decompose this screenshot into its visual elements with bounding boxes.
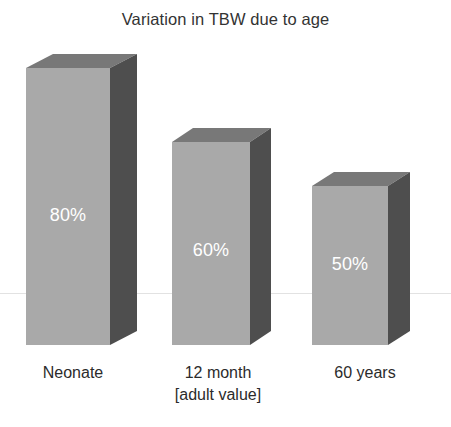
bar-neonate: 80% <box>26 54 137 345</box>
plot-area: 80% 60% 50% <box>0 0 451 355</box>
bar-side-face <box>388 172 410 345</box>
bar-value-label: 80% <box>26 205 110 226</box>
category-label-60-years: 60 years <box>300 362 430 384</box>
bar-60-years: 50% <box>312 172 410 345</box>
bar-value-label: 60% <box>172 240 250 261</box>
category-label-main: 60 years <box>334 364 395 381</box>
category-label-main: 12 month <box>185 364 252 381</box>
category-label-12-month: 12 month [adult value] <box>153 362 283 406</box>
category-label-main: Neonate <box>43 364 104 381</box>
bar-side-face <box>250 128 271 345</box>
category-label-sub: [adult value] <box>153 384 283 406</box>
bar-12-month: 60% <box>172 128 271 345</box>
bar-chart: Variation in TBW due to age 80% 60% 50% <box>0 0 451 427</box>
category-label-neonate: Neonate <box>8 362 138 384</box>
bar-side-face <box>110 54 137 345</box>
bar-value-label: 50% <box>312 254 388 275</box>
